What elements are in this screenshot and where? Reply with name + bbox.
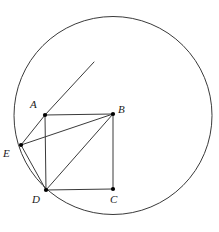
- point-B: [111, 112, 115, 116]
- vertex-label-A: A: [30, 99, 37, 110]
- geometry-figure: ABCDE: [0, 0, 219, 232]
- vertex-label-C: C: [110, 194, 117, 205]
- segment-layer: [21, 114, 113, 190]
- point-D: [44, 188, 48, 192]
- ray-layer: [45, 62, 94, 115]
- vertex-label-E: E: [3, 148, 10, 159]
- segment-ED: [21, 145, 46, 190]
- point-E: [19, 143, 23, 147]
- point-layer: [19, 112, 115, 192]
- ray-EA-extended: [45, 62, 94, 115]
- segment-AB: [45, 114, 113, 115]
- point-C: [111, 187, 115, 191]
- vertex-label-B: B: [118, 104, 125, 115]
- segment-DA: [45, 115, 46, 190]
- segment-CD: [46, 189, 113, 190]
- vertex-label-D: D: [32, 194, 40, 205]
- point-A: [43, 113, 47, 117]
